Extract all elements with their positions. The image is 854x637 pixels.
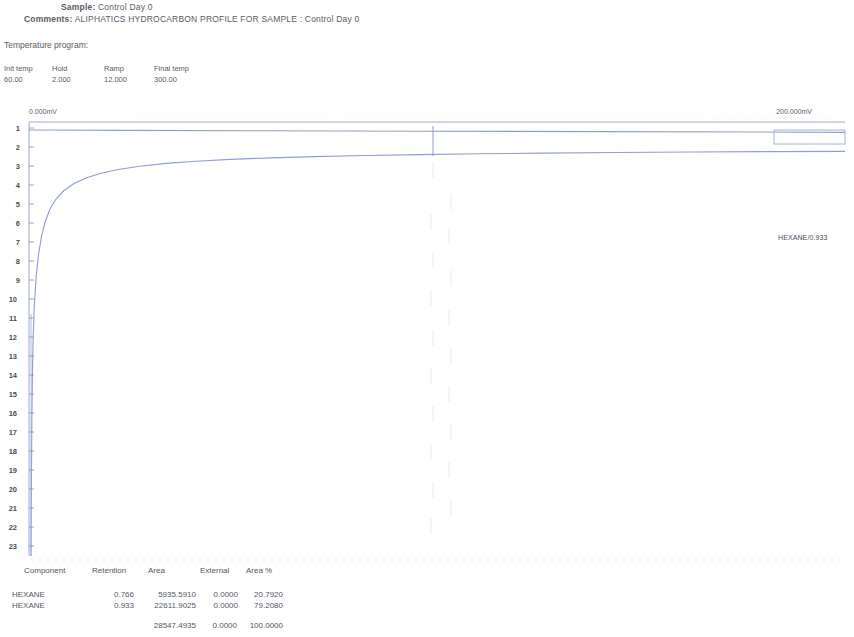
temp-col-final-temp: Final temp: [154, 64, 214, 75]
y-tick-1: 1: [4, 124, 20, 133]
temp-col-hold: Hold: [52, 64, 104, 75]
row-area: 5935.5910: [138, 590, 196, 599]
y-tick-21: 21: [1, 504, 17, 513]
row-area-pct: 79.2080: [241, 601, 283, 610]
comments-line: Comments: ALIPHATICS HYDROCARBON PROFILE…: [24, 14, 359, 24]
chromatogram-chart: 0.000mV 200.000mV: [0, 104, 854, 564]
comments-label: Comments:: [24, 14, 73, 24]
results-header-row: Component Retention Area External Area %: [0, 566, 854, 580]
y-tick-10: 10: [1, 295, 17, 304]
y-tick-22: 22: [1, 523, 17, 532]
sample-line: Sample: Control Day 0: [61, 2, 153, 12]
temp-header-row: Init temp Hold Ramp Final temp: [4, 64, 214, 75]
y-tick-3: 3: [4, 162, 20, 171]
row-external: 0.0000: [200, 601, 238, 610]
peak-label-hexane: HEXANE/0.933: [778, 234, 827, 241]
row-component: HEXANE: [12, 590, 45, 599]
results-table: Component Retention Area External Area %…: [0, 566, 854, 633]
y-tick-6: 6: [4, 219, 20, 228]
y-tick-5: 5: [4, 200, 20, 209]
y-tick-8: 8: [4, 257, 20, 266]
comments-value: ALIPHATICS HYDROCARBON PROFILE FOR SAMPL…: [75, 14, 360, 24]
temp-col-init-temp: Init temp: [4, 64, 52, 75]
y-tick-9: 9: [4, 276, 20, 285]
y-tick-20: 20: [1, 485, 17, 494]
total-external: 0.0000: [199, 621, 237, 630]
y-tick-23: 23: [1, 542, 17, 551]
table-row: HEXANE 0.933 22611.9025 0.0000 79.2080: [0, 601, 854, 612]
chromatogram-trace: [31, 151, 845, 556]
results-col-area: Area: [148, 566, 165, 575]
y-tick-17: 17: [1, 428, 17, 437]
results-col-retention: Retention: [92, 566, 126, 575]
y-tick-19: 19: [1, 466, 17, 475]
y-tick-13: 13: [1, 352, 17, 361]
results-total-row: 28547.4935 0.0000 100.0000: [0, 621, 854, 633]
y-tick-4: 4: [4, 181, 20, 190]
temperature-program-table: Init temp Hold Ramp Final temp 60.00 2.0…: [4, 64, 214, 86]
y-tick-2: 2: [4, 143, 20, 152]
table-row: HEXANE 0.766 5935.5910 0.0000 20.7920: [0, 590, 854, 601]
total-area-pct: 100.0000: [237, 621, 283, 630]
results-col-component: Component: [24, 566, 65, 575]
y-tick-7: 7: [4, 238, 20, 247]
temp-val-hold: 2.000: [52, 75, 104, 86]
sample-label: Sample:: [61, 2, 95, 12]
temp-value-row: 60.00 2.000 12.000 300.00: [4, 75, 214, 86]
temp-val-final-temp: 300.00: [154, 75, 214, 86]
row-area-pct: 20.7920: [241, 590, 283, 599]
y-tick-12: 12: [1, 333, 17, 342]
sample-value: Control Day 0: [98, 2, 153, 12]
results-col-external: External: [200, 566, 229, 575]
row-area: 22611.9025: [138, 601, 196, 610]
total-area: 28547.4935: [138, 621, 196, 630]
row-component: HEXANE: [12, 601, 45, 610]
y-tick-18: 18: [1, 447, 17, 456]
temperature-program-title: Temperature program:: [4, 40, 88, 50]
temp-col-ramp: Ramp: [104, 64, 154, 75]
temp-val-init-temp: 60.00: [4, 75, 52, 86]
scan-artifacts-center: [431, 162, 451, 534]
row-retention: 0.933: [100, 601, 134, 610]
chromatogram-plot: [0, 104, 854, 564]
y-tick-16: 16: [1, 409, 17, 418]
row-retention: 0.766: [100, 590, 134, 599]
y-tick-14: 14: [1, 371, 17, 380]
temp-val-ramp: 12.000: [104, 75, 154, 86]
row-external: 0.0000: [200, 590, 238, 599]
y-tick-15: 15: [1, 390, 17, 399]
baseline-trace-upper: [29, 130, 845, 132]
results-col-area-pct: Area %: [246, 566, 272, 575]
y-tick-11: 11: [1, 314, 17, 323]
